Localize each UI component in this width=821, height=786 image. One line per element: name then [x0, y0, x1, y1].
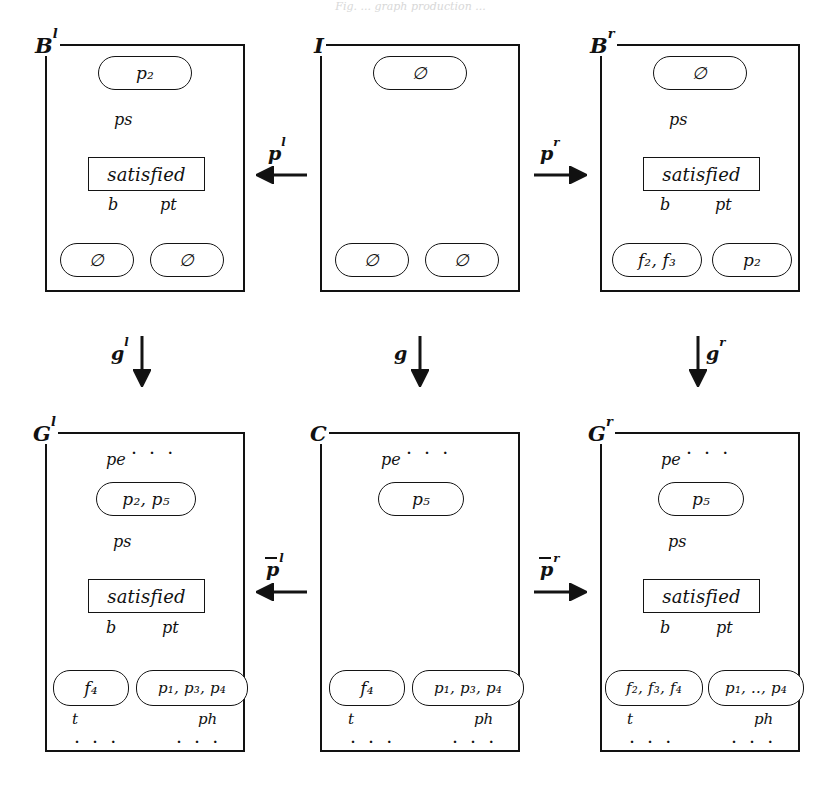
node-Gl-bottom-left: f₄: [53, 670, 129, 706]
cropped-caption: Fig. ... graph production ...: [0, 0, 821, 12]
panel-label-I: I: [312, 34, 326, 56]
node-Gl-satisfied: satisfied: [88, 579, 205, 613]
ellipsis-Gl-in: · · ·: [131, 443, 176, 462]
ellipsis-Gl-out-right: · · ·: [176, 732, 221, 751]
edge-label-Br-pt: pt: [715, 197, 732, 213]
morphism-label-pr: pr: [540, 144, 560, 163]
edge-label-Br-b: b: [660, 197, 670, 213]
panel-label-Gl: Gl: [31, 422, 58, 444]
node-C-bottom-left: f₄: [329, 670, 405, 706]
edge-label-Gr-pe: pe: [661, 452, 681, 468]
ellipsis-Gr-out-right: · · ·: [731, 732, 776, 751]
node-I-bottom-left: ∅: [335, 243, 409, 277]
edge-label-C-t: t: [348, 712, 354, 727]
node-Gl-bottom-right: p₁, p₃, p₄: [136, 670, 248, 706]
node-Br-bottom-right: p₂: [712, 243, 792, 277]
node-I-top: ∅: [373, 56, 467, 90]
edge-label-C-ph: ph: [474, 712, 493, 727]
edge-label-Gr-t: t: [627, 712, 633, 727]
edge-label-Gl-pe: pe: [106, 452, 126, 468]
node-Bl-bottom-right: ∅: [150, 243, 224, 277]
panel-label-Gr: Gr: [586, 422, 615, 444]
ellipsis-Gr-in: · · ·: [686, 443, 731, 462]
node-I-bottom-right: ∅: [425, 243, 499, 277]
edge-label-Bl-ps: ps: [114, 112, 132, 128]
node-C-bottom-right: p₁, p₃, p₄: [412, 670, 524, 706]
morphism-label-gl: gl: [111, 344, 129, 363]
edge-label-Gl-ps: ps: [113, 534, 131, 550]
node-Bl-bottom-left: ∅: [60, 243, 134, 277]
edge-label-Gl-ph: ph: [198, 712, 217, 727]
panel-label-Br: Br: [588, 34, 617, 56]
node-Gr-satisfied: satisfied: [643, 579, 760, 613]
morphism-label-pbarr: pr: [540, 560, 560, 579]
node-C-top: p₅: [378, 482, 464, 516]
node-Gr-bottom-left: f₂, f₃, f₄: [605, 670, 703, 706]
edge-label-Gl-b: b: [106, 620, 116, 636]
edge-label-Gr-pt: pt: [716, 620, 733, 636]
morphism-label-pbarl: pl: [266, 560, 284, 579]
edge-label-Bl-pt: pt: [160, 197, 177, 213]
node-Gr-top: p₅: [658, 482, 744, 516]
ellipsis-C-out-right: · · ·: [452, 732, 497, 751]
node-Br-satisfied: satisfied: [643, 157, 760, 191]
edge-label-Gr-ps: ps: [668, 534, 686, 550]
morphism-label-pl: pl: [268, 144, 286, 163]
edge-label-Bl-b: b: [108, 197, 118, 213]
morphism-label-g: g: [394, 344, 407, 363]
edge-label-Gr-b: b: [660, 620, 670, 636]
panel-label-C: C: [308, 422, 329, 444]
ellipsis-C-out-left: · · ·: [350, 732, 395, 751]
edge-label-C-pe: pe: [381, 452, 401, 468]
ellipsis-Gl-out-left: · · ·: [74, 732, 119, 751]
edge-label-Gl-t: t: [72, 712, 78, 727]
node-Bl-satisfied: satisfied: [88, 157, 205, 191]
ellipsis-Gr-out-left: · · ·: [629, 732, 674, 751]
node-Br-top: ∅: [653, 56, 747, 90]
edge-label-Gl-pt: pt: [162, 620, 179, 636]
panel-label-Bl: Bl: [33, 34, 60, 56]
node-Gr-bottom-right: p₁, .., p₄: [708, 670, 804, 706]
node-Gl-top: p₂, p₅: [96, 482, 196, 516]
morphism-label-gr: gr: [706, 344, 726, 363]
node-Bl-top: p₂: [98, 56, 192, 90]
diagram-canvas: Fig. ... graph production ...: [0, 0, 821, 786]
edge-label-Gr-ph: ph: [754, 712, 773, 727]
edge-label-Br-ps: ps: [669, 112, 687, 128]
node-Br-bottom-left: f₂, f₃: [612, 243, 702, 277]
ellipsis-C-in: · · ·: [406, 443, 451, 462]
